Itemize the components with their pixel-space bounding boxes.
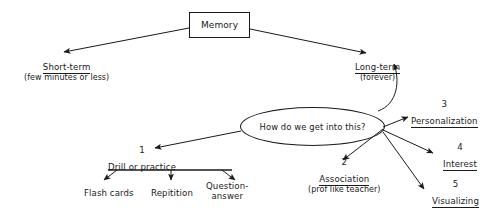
question-label: How do we get into this? <box>260 122 366 132</box>
edge-memory-to-long-term <box>250 29 366 53</box>
repitition-label: Repitition <box>151 188 193 198</box>
memory-label: Memory <box>201 20 238 30</box>
short-term-detail: (few minutes or less) <box>24 74 109 83</box>
visualizing-label: Visualizing <box>432 197 479 208</box>
visualizing-node: 5 Visualizing <box>432 180 479 208</box>
interest-node: 4 Interest <box>443 143 477 171</box>
personalization-label: Personalization <box>411 117 478 128</box>
repitition-node: Repitition <box>151 182 193 200</box>
interest-number: 4 <box>443 143 477 153</box>
question-ellipse: How do we get into this? <box>240 107 385 146</box>
drill-or-practice-node: 1 Drill or practice <box>108 146 176 174</box>
personalization-node: 3 Personalization <box>411 100 478 128</box>
edge-memory-to-short-term <box>64 28 189 52</box>
edge-question-to-visualizing <box>383 132 424 189</box>
question-answer-node: Question- answer <box>206 182 248 201</box>
short-term-node: Short-term (few minutes or less) <box>24 56 109 83</box>
edge-question-to-personalization <box>383 117 408 127</box>
question-answer-label-line2: answer <box>206 192 248 202</box>
association-number: 2 <box>308 158 381 168</box>
flash-cards-label: Flash cards <box>84 188 134 198</box>
association-node: 2 Association (prof like teacher) <box>308 158 381 195</box>
personalization-number: 3 <box>411 100 478 110</box>
drill-number: 1 <box>108 146 176 156</box>
drill-label: Drill or practice <box>108 162 176 172</box>
memory-concept-diagram: Memory Short-term (few minutes or less) … <box>0 0 498 218</box>
association-detail: (prof like teacher) <box>308 186 381 195</box>
long-term-detail: (forever) <box>355 74 400 83</box>
long-term-node: Long-term (forever) <box>355 56 400 83</box>
edge-drill-to-question-answer <box>222 170 235 180</box>
flash-cards-node: Flash cards <box>84 182 134 200</box>
edge-question-to-interest <box>383 130 433 153</box>
memory-root-box: Memory <box>189 12 250 38</box>
interest-label: Interest <box>443 160 477 171</box>
visualizing-number: 5 <box>432 180 479 190</box>
